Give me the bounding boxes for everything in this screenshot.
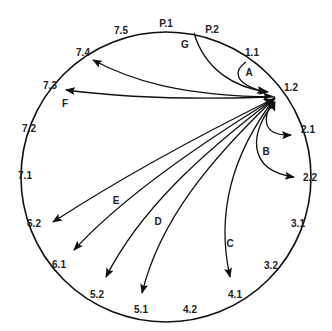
arc-label-c: C (226, 238, 233, 249)
node-label-n75: 7.5 (114, 25, 128, 36)
outer-circle (21, 32, 311, 322)
node-label-n73: 7.3 (43, 80, 57, 91)
edge-b-2-1 (266, 102, 291, 135)
node-label-n22: 2.2 (303, 172, 317, 183)
arc-label-e: E (113, 195, 120, 206)
node-label-n52: 5.2 (90, 289, 104, 300)
node-label-n72: 7.2 (22, 123, 36, 134)
state-diagram (0, 0, 332, 331)
node-label-n51: 5.1 (134, 304, 148, 315)
node-label-n21: 2.1 (301, 124, 315, 135)
arc-label-g: G (181, 39, 189, 50)
node-label-n62: 6.2 (27, 218, 41, 229)
node-label-n32: 3.2 (264, 260, 278, 271)
arc-label-d: D (154, 216, 161, 227)
node-label-n41: 4.1 (228, 289, 242, 300)
edge-e-6-2 (53, 98, 275, 222)
node-label-n31: 3.1 (291, 218, 305, 229)
edge-f (66, 90, 268, 98)
node-label-n12: 1.2 (284, 82, 298, 93)
node-label-n74: 7.4 (76, 47, 90, 58)
arc-label-b: B (262, 146, 269, 157)
node-label-n42: 4.2 (183, 304, 197, 315)
arc-label-f: F (62, 98, 68, 109)
arc-label-a: A (245, 67, 252, 78)
edge-g (194, 33, 268, 92)
edge-b-2-2 (256, 102, 294, 177)
node-label-n11: 1.1 (245, 47, 259, 58)
node-label-p2: P.2 (205, 24, 219, 35)
edge-d-5-2 (106, 98, 275, 277)
node-label-n71: 7.1 (18, 170, 32, 181)
node-label-p1: P.1 (159, 18, 173, 29)
node-label-n61: 6.1 (52, 259, 66, 270)
